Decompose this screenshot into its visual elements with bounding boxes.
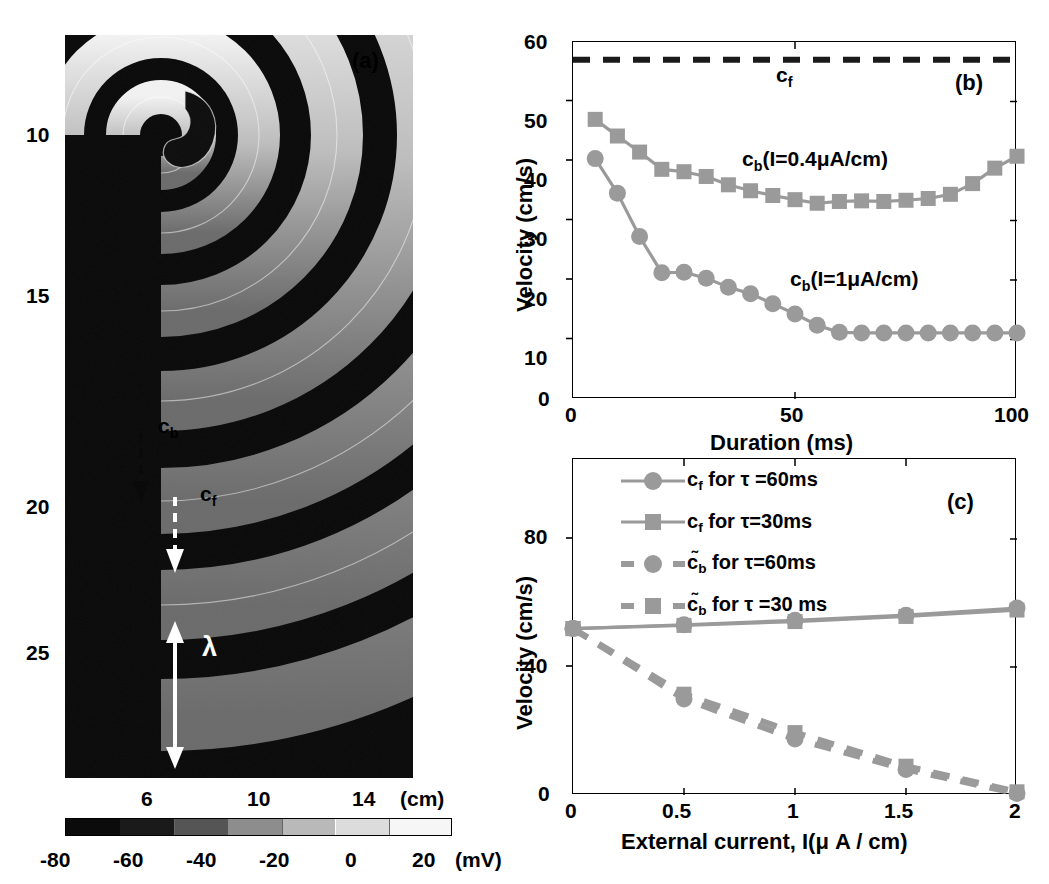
legend-cb60-sub: b bbox=[698, 561, 706, 576]
panel-b-cb1-rest: (I=1μA/cm) bbox=[810, 267, 918, 290]
panel-a-x-unit: (cm) bbox=[400, 788, 444, 809]
legend-cb30-sub: b bbox=[698, 603, 706, 618]
panel-b-xtick-50: 50 bbox=[780, 404, 803, 425]
panel-c-xtick-15: 1.5 bbox=[884, 800, 913, 821]
series-cb-tilde-tau60 bbox=[565, 620, 1026, 802]
panel-c-xtick-0: 0 bbox=[565, 800, 577, 821]
figure-root: (a) cb cf λ 10 15 20 25 6 10 14 (cm) -80… bbox=[0, 0, 1049, 884]
colorbar-tick-0: 0 bbox=[345, 849, 357, 870]
annotation-cf-sub: f bbox=[212, 493, 217, 509]
legend-cb30-main: c̃ bbox=[687, 593, 698, 615]
panel-c-label: (c) bbox=[947, 491, 974, 513]
panel-a-xtick-6: 6 bbox=[141, 788, 153, 809]
panel-b-xtick-100: 100 bbox=[994, 404, 1029, 425]
colorbar-tick--20: -20 bbox=[259, 849, 289, 870]
panel-b-annotation-cb-04: cb(I=0.4μA/cm) bbox=[742, 148, 888, 173]
colorbar-tick--80: -80 bbox=[40, 849, 70, 870]
panel-a-annotations bbox=[65, 35, 413, 778]
annotation-cb: cb bbox=[158, 415, 178, 440]
legend-cb60-rest: for τ=60ms bbox=[712, 551, 816, 573]
panel-b-cb04-rest: (I=0.4μA/cm) bbox=[762, 147, 887, 170]
panel-c-xlabel: External current, I(μ A / cm) bbox=[621, 831, 908, 853]
panel-c-xtick-1: 1 bbox=[787, 800, 799, 821]
legend-item-cbtilde-tau30[interactable]: c̃b for τ =30 ms bbox=[687, 594, 827, 618]
panel-b-plot-area bbox=[572, 41, 1016, 398]
colorbar-tick--40: -40 bbox=[186, 849, 216, 870]
legend-swatch-cf-tau30[interactable] bbox=[621, 514, 685, 530]
legend-item-cf-tau60[interactable]: cf for τ =60ms bbox=[687, 469, 818, 493]
panel-c-xtick-05: 0.5 bbox=[662, 800, 691, 821]
legend-swatch-cb-tilde-tau30[interactable] bbox=[621, 598, 685, 614]
panel-b-ytick-marks bbox=[564, 41, 574, 398]
panel-b-cf-main: c bbox=[776, 63, 788, 86]
panel-b-series-svg bbox=[573, 42, 1017, 399]
annotation-cf: cf bbox=[200, 483, 216, 508]
panel-a-ytick-25: 25 bbox=[26, 642, 49, 663]
panel-c-xtick-2: 2 bbox=[1009, 800, 1021, 821]
annotation-cb-sub: b bbox=[170, 425, 179, 441]
legend-swatch-cb-tilde-tau60[interactable] bbox=[621, 555, 685, 573]
legend-item-cbtilde-tau60[interactable]: c̃b for τ=60ms bbox=[687, 552, 816, 576]
panel-a-ytick-10: 10 bbox=[26, 124, 49, 145]
panel-b-xlabel: Duration (ms) bbox=[710, 432, 853, 454]
panel-b-cf-sub: f bbox=[788, 74, 793, 90]
panel-c-ylabel: Velocity (cm/s) bbox=[514, 576, 536, 730]
legend-swatch-cf-tau60[interactable] bbox=[621, 472, 685, 490]
legend-cf60-rest: for τ =60ms bbox=[708, 468, 818, 490]
colorbar-tick--60: -60 bbox=[113, 849, 143, 870]
legend-cf60-sub: f bbox=[698, 478, 703, 493]
panel-b-ytick-60: 60 bbox=[524, 31, 547, 52]
panel-c-ytick-80: 80 bbox=[524, 526, 547, 547]
series-cb-tilde-tau30 bbox=[566, 621, 1025, 799]
colorbar-tick-20: 20 bbox=[412, 849, 435, 870]
annotation-cb-main: c bbox=[158, 414, 170, 437]
panel-a-ytick-20: 20 bbox=[26, 496, 49, 517]
panel-c-ytick-0: 0 bbox=[538, 783, 550, 804]
annotation-cf-main: c bbox=[200, 482, 212, 505]
legend-cf30-main: c bbox=[687, 510, 698, 532]
panel-b-ytick-50: 50 bbox=[524, 110, 547, 131]
panel-b-cb04-main: c bbox=[742, 147, 754, 170]
legend-cf30-sub: f bbox=[698, 520, 703, 535]
legend-cf30-rest: for τ=30ms bbox=[708, 510, 812, 532]
panel-b-cb1-main: c bbox=[790, 267, 802, 290]
panel-b-annotation-cb-1: cb(I=1μA/cm) bbox=[790, 268, 918, 293]
panel-b-ytick-10: 10 bbox=[524, 347, 547, 368]
panel-c-ytick-marks bbox=[564, 458, 574, 794]
spiral-wave-heatmap bbox=[65, 35, 413, 778]
panel-a-ytick-15: 15 bbox=[26, 285, 49, 306]
panel-a-xtick-14: 14 bbox=[352, 788, 375, 809]
colorbar-unit: (mV) bbox=[455, 849, 502, 870]
panel-a-xtick-10: 10 bbox=[247, 788, 270, 809]
panel-a-label: (a) bbox=[352, 50, 379, 72]
panel-b-xtick-0: 0 bbox=[565, 404, 577, 425]
panel-b-ytick-0: 0 bbox=[538, 388, 550, 409]
series-c_b(I=1uA/cm) bbox=[587, 150, 1026, 341]
panel-b-label: (b) bbox=[955, 72, 983, 94]
annotation-lambda: λ bbox=[202, 634, 217, 661]
legend-cf60-main: c bbox=[687, 468, 698, 490]
panel-b-annotation-cf: cf bbox=[776, 64, 792, 89]
legend-cb60-main: c̃ bbox=[687, 551, 698, 573]
voltage-colorbar bbox=[65, 818, 452, 836]
legend-cb30-rest: for τ =30 ms bbox=[712, 593, 827, 615]
legend-item-cf-tau30[interactable]: cf for τ=30ms bbox=[687, 511, 812, 535]
panel-b-ylabel: Velocity (cm/s) bbox=[514, 158, 536, 312]
